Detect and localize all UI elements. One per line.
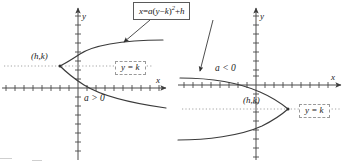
right-condition-label: a < 0: [215, 64, 236, 74]
left-vertex-label: (h,k): [31, 52, 48, 61]
right-x-axis-label: x: [331, 73, 335, 82]
equation-box: x=a(y−k)2+h: [133, 2, 190, 20]
left-axis-of-symmetry-label: y = k: [115, 61, 146, 75]
parabola-figure: x=a(y−k)2+h y x (h,k) y = k a > 0 y x (h…: [0, 0, 344, 165]
right-graph-axes: [178, 8, 341, 160]
equation-vertex-h: h: [180, 6, 185, 16]
right-vertex-point: [287, 108, 290, 111]
right-axis-of-symmetry-label: y = k: [299, 104, 330, 118]
left-x-axis-label: x: [156, 76, 160, 85]
equation-leader-left: [124, 20, 150, 42]
left-vertex-point: [59, 65, 62, 68]
figure-graphics: [0, 0, 344, 165]
right-y-axis-label: y: [260, 12, 264, 21]
scan-edge-mark-right: [32, 160, 42, 161]
left-parabola-curve: [60, 40, 166, 108]
left-graph-axes: [2, 8, 166, 160]
left-y-axis-label: y: [82, 12, 86, 21]
right-vertex-label: (h,k): [243, 96, 260, 105]
left-condition-label: a > 0: [84, 94, 105, 104]
scan-edge-mark-left: [0, 158, 12, 159]
equation-leader-right: [200, 20, 213, 71]
